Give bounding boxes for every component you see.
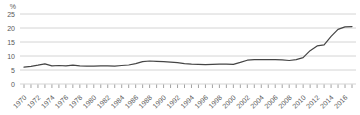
- x-axis-tick-label: 1978: [68, 94, 84, 110]
- x-axis-tick-label: 1996: [193, 94, 209, 110]
- x-axis-tick-label: 1984: [109, 94, 125, 110]
- x-axis-tick-label: 1980: [82, 94, 98, 110]
- x-axis-tick-label: 2010: [291, 94, 307, 110]
- x-axis-tick-label: 1986: [123, 94, 139, 110]
- x-axis-tick-label: 2004: [249, 94, 265, 110]
- x-axis-tick-label: 2008: [277, 94, 293, 110]
- x-axis-tick-label: 1990: [151, 94, 167, 110]
- x-axis-tick-label: 2014: [319, 94, 335, 110]
- x-axis-tick-label: 1998: [207, 94, 223, 110]
- y-axis-tick-label: 10: [7, 53, 15, 60]
- y-axis-tick-label: 0: [11, 81, 15, 88]
- chart-canvas: 0510152025%19701972197419761978198019821…: [0, 0, 360, 115]
- x-axis-tick-label: 1972: [26, 94, 42, 110]
- x-axis-tick-label: 2002: [235, 94, 251, 110]
- x-axis-tick-label: 1976: [54, 94, 70, 110]
- line-chart: 0510152025%19701972197419761978198019821…: [0, 0, 360, 115]
- x-axis-tick-label: 1994: [179, 94, 195, 110]
- y-axis-tick-label: 25: [7, 11, 15, 18]
- x-axis-tick-label: 1970: [12, 94, 28, 110]
- x-axis-tick-label: 2000: [221, 94, 237, 110]
- data-line-series: [24, 27, 352, 68]
- y-axis-tick-label: 20: [7, 25, 15, 32]
- x-axis-tick-label: 1992: [165, 94, 181, 110]
- x-axis-tick-label: 2012: [305, 94, 321, 110]
- x-axis-tick-label: 1982: [95, 94, 111, 110]
- x-axis-tick-label: 2006: [263, 94, 279, 110]
- y-axis-tick-label: 5: [11, 67, 15, 74]
- x-axis-tick-label: 1974: [40, 94, 56, 110]
- y-axis-tick-label: 15: [7, 39, 15, 46]
- x-axis-tick-label: 2016: [333, 94, 349, 110]
- x-axis-tick-label: 1988: [137, 94, 153, 110]
- y-axis-unit-label: %: [10, 3, 16, 10]
